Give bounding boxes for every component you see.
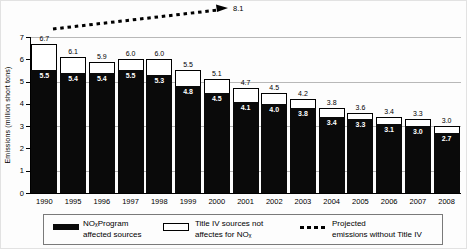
projected-value-label: 8.1 — [233, 4, 243, 13]
bar-affected-value-label: 4.5 — [204, 95, 230, 103]
x-tick-label: 2000 — [202, 198, 231, 206]
bar-white-segment — [146, 59, 172, 76]
legend-label-title-iv-sources: Title IV sources not affectes for NOₓ — [195, 218, 263, 240]
bar-affected-value-label: 5.4 — [89, 75, 115, 83]
y-tick-label: 7 — [12, 34, 24, 41]
bar-black-segment — [261, 104, 287, 193]
bar-black-segment — [319, 117, 345, 193]
x-tick-label: 2001 — [231, 198, 260, 206]
bar-total-value-label: 5.9 — [89, 53, 115, 61]
bar-white-segment — [204, 79, 230, 93]
bar-affected-value-label: 5.5 — [118, 72, 144, 80]
bar-black-segment — [204, 93, 230, 193]
bar-affected-value-label: 3.3 — [347, 121, 373, 129]
legend-label-affected-sources: NOₓProgram affected sources — [83, 218, 142, 240]
bar-affected-value-label: 3.0 — [405, 128, 431, 136]
x-tick-label: 2007 — [404, 198, 433, 206]
bar-black-segment — [31, 70, 57, 193]
bar-white-segment — [60, 57, 86, 74]
bar-black-segment — [233, 102, 259, 193]
bar-total-value-label: 3.6 — [347, 104, 373, 112]
bar-total-value-label: 4.7 — [233, 79, 259, 87]
x-tick-label: 2002 — [260, 198, 289, 206]
legend-swatch-projected-line — [300, 226, 327, 229]
gridline — [30, 37, 461, 38]
bar-total-value-label: 6.1 — [60, 48, 86, 56]
y-tick-label: 0 — [12, 190, 24, 197]
bar-black-segment — [118, 70, 144, 193]
y-tick-label: 2 — [12, 145, 24, 152]
legend-label-line: emissions without Title IV — [332, 229, 422, 240]
x-tick-label: 2008 — [432, 198, 461, 206]
legend-label-line: Projected — [332, 218, 422, 229]
bar-total-value-label: 5.1 — [204, 70, 230, 78]
x-tick-label: 2006 — [375, 198, 404, 206]
bar-affected-value-label: 4.0 — [261, 106, 287, 114]
bar-affected-value-label: 2.7 — [434, 135, 460, 143]
legend-label-line: affected sources — [83, 229, 142, 240]
x-tick-label: 2003 — [289, 198, 318, 206]
bar-total-value-label: 6.0 — [118, 50, 144, 58]
bar-black-segment — [175, 86, 201, 193]
bar-affected-value-label: 5.5 — [31, 72, 57, 80]
y-tick-label: 4 — [12, 100, 24, 107]
legend-label-line: Title IV sources not — [195, 218, 263, 229]
bar-total-value-label: 3.3 — [405, 110, 431, 118]
x-tick-label: 1998 — [145, 198, 174, 206]
x-tick-label: 1995 — [59, 198, 88, 206]
bar-black-segment — [405, 126, 431, 193]
x-tick-label: 1999 — [174, 198, 203, 206]
x-tick-label: 1996 — [87, 198, 116, 206]
bar-affected-value-label: 3.8 — [290, 110, 316, 118]
legend-swatch-affected-sources — [53, 224, 79, 230]
legend-swatch-title-iv-sources — [163, 223, 189, 231]
emissions-chart-figure: Emissions (million short tons) 012345675… — [0, 0, 467, 249]
bar-black-segment — [347, 119, 373, 193]
bar-affected-value-label: 4.8 — [175, 88, 201, 96]
bar-white-segment — [31, 44, 57, 72]
y-tick-label: 5 — [12, 78, 24, 85]
bar-affected-value-label: 5.3 — [146, 77, 172, 85]
x-tick-label: 1997 — [116, 198, 145, 206]
bar-black-segment — [290, 108, 316, 193]
bar-affected-value-label: 3.1 — [376, 126, 402, 134]
bar-total-value-label: 4.2 — [290, 90, 316, 98]
bar-total-value-label: 3.4 — [376, 108, 402, 116]
bar-affected-value-label: 5.4 — [60, 75, 86, 83]
legend: NOₓProgram affected sources Title IV sou… — [43, 214, 443, 245]
bar-total-value-label: 4.5 — [261, 84, 287, 92]
bar-black-segment — [376, 124, 402, 193]
y-tick-label: 3 — [12, 123, 24, 130]
legend-label-projected: Projected emissions without Title IV — [332, 218, 422, 240]
x-tick-label: 1990 — [30, 198, 59, 206]
arrowhead-icon — [216, 5, 228, 13]
bar-total-value-label: 5.5 — [175, 61, 201, 69]
y-tick-label: 6 — [12, 56, 24, 63]
bar-total-value-label: 6.7 — [31, 35, 57, 43]
bar-black-segment — [146, 75, 172, 193]
bar-black-segment — [89, 73, 115, 193]
x-tick-label: 2004 — [317, 198, 346, 206]
bar-total-value-label: 3.0 — [434, 117, 460, 125]
bar-affected-value-label: 4.1 — [233, 104, 259, 112]
x-tick-label: 2005 — [346, 198, 375, 206]
bar-black-segment — [60, 73, 86, 193]
y-tick-label: 1 — [12, 167, 24, 174]
bar-total-value-label: 6.0 — [146, 50, 172, 58]
bar-white-segment — [233, 88, 259, 102]
bar-total-value-label: 3.8 — [319, 99, 345, 107]
x-axis-line — [30, 193, 461, 194]
legend-label-line: NOₓProgram — [83, 218, 142, 229]
bar-affected-value-label: 3.4 — [319, 119, 345, 127]
bar-white-segment — [175, 70, 201, 87]
projected-dotted-line — [53, 10, 218, 29]
legend-label-line: affectes for NOₓ — [195, 229, 263, 240]
